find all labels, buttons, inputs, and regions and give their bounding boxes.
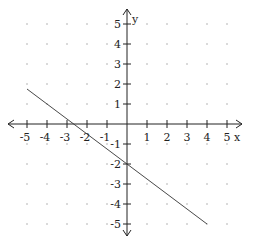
grid-dot — [206, 83, 207, 84]
grid-dot — [166, 163, 167, 164]
grid-dot — [46, 163, 47, 164]
grid-dot — [226, 23, 227, 24]
y-tick-label: 5 — [114, 18, 121, 31]
x-tick-label: -3 — [60, 131, 71, 144]
grid-dot — [86, 223, 87, 224]
grid-dot — [46, 83, 47, 84]
x-tick-label: 5 — [224, 131, 231, 144]
grid-dot — [206, 43, 207, 44]
grid-dot — [166, 223, 167, 224]
grid-dot — [206, 203, 207, 204]
grid-dot — [146, 203, 147, 204]
grid-dot — [226, 203, 227, 204]
grid-dot — [226, 103, 227, 104]
grid-dot — [46, 183, 47, 184]
grid-dot — [186, 223, 187, 224]
grid-dot — [186, 63, 187, 64]
grid-dot — [146, 63, 147, 64]
grid-dot — [226, 43, 227, 44]
grid-dot — [186, 163, 187, 164]
y-tick-label: 1 — [114, 98, 121, 111]
grid-dot — [106, 83, 107, 84]
x-tick-label: -5 — [20, 131, 31, 144]
grid-dot — [226, 83, 227, 84]
grid-dot — [86, 183, 87, 184]
grid-dot — [26, 223, 27, 224]
grid-dot — [186, 23, 187, 24]
x-tick-label: 3 — [184, 131, 191, 144]
grid-dot — [106, 163, 107, 164]
y-tick-label: 4 — [114, 38, 121, 51]
grid-dot — [206, 63, 207, 64]
grid-dot — [206, 103, 207, 104]
y-tick-label: -1 — [110, 138, 121, 151]
grid-dot — [86, 63, 87, 64]
grid-dot — [106, 23, 107, 24]
grid-dot — [106, 63, 107, 64]
grid-dot — [106, 203, 107, 204]
grid-dot — [106, 103, 107, 104]
grid-dot — [106, 223, 107, 224]
grid-dot — [146, 223, 147, 224]
grid-dot — [226, 223, 227, 224]
grid-dot — [46, 223, 47, 224]
grid-dot — [66, 203, 67, 204]
grid-dot — [26, 203, 27, 204]
grid-dot — [226, 163, 227, 164]
grid-dot — [66, 83, 67, 84]
grid-dot — [66, 23, 67, 24]
grid-dot — [146, 103, 147, 104]
grid-dot — [186, 183, 187, 184]
grid-dot — [86, 23, 87, 24]
grid-dot — [166, 203, 167, 204]
grid-dot — [86, 43, 87, 44]
grid-dot — [206, 23, 207, 24]
grid-dot — [66, 43, 67, 44]
y-tick-label: -5 — [110, 218, 121, 231]
grid-dot — [66, 63, 67, 64]
x-tick-label: 2 — [164, 131, 171, 144]
grid-dot — [66, 103, 67, 104]
grid-dot — [186, 43, 187, 44]
grid-dot — [186, 103, 187, 104]
grid-dot — [206, 163, 207, 164]
grid-dot — [86, 103, 87, 104]
grid-dot — [146, 163, 147, 164]
grid-dot — [146, 183, 147, 184]
grid-dot — [26, 103, 27, 104]
grid-dot — [26, 23, 27, 24]
grid-dot — [26, 63, 27, 64]
grid-dot — [166, 183, 167, 184]
grid-dot — [226, 63, 227, 64]
grid-dot — [166, 103, 167, 104]
grid-dot — [166, 23, 167, 24]
grid-dot — [26, 163, 27, 164]
grid-dot — [166, 83, 167, 84]
y-tick-label: 3 — [114, 58, 121, 71]
grid-dot — [66, 223, 67, 224]
grid-dot — [146, 83, 147, 84]
grid-dot — [166, 63, 167, 64]
grid-dot — [186, 83, 187, 84]
grid-dot — [186, 203, 187, 204]
grid-dot — [86, 83, 87, 84]
x-axis-label: x — [234, 131, 241, 144]
grid-dot — [206, 183, 207, 184]
x-tick-label: 1 — [144, 131, 151, 144]
grid-dot — [166, 43, 167, 44]
y-tick-label: -2 — [110, 158, 121, 171]
grid-dot — [26, 43, 27, 44]
y-tick-label: 2 — [114, 78, 121, 91]
grid-dot — [46, 63, 47, 64]
x-tick-label: -1 — [100, 131, 111, 144]
grid-dot — [86, 203, 87, 204]
grid-dot — [106, 183, 107, 184]
grid-dot — [146, 43, 147, 44]
grid-dot — [26, 83, 27, 84]
y-tick-label: -3 — [110, 178, 121, 191]
grid-dot — [86, 163, 87, 164]
grid-dot — [46, 23, 47, 24]
x-tick-label: -4 — [40, 131, 51, 144]
grid-dot — [66, 163, 67, 164]
grid-dot — [226, 183, 227, 184]
